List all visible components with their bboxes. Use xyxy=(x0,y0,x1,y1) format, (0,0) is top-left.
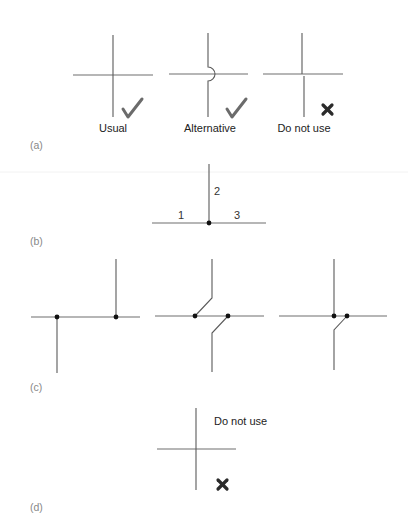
cross-icon xyxy=(218,480,227,489)
cross-icon xyxy=(323,105,332,114)
caption-alternative: Alternative xyxy=(184,122,236,134)
upper-wire xyxy=(195,259,212,316)
checkmark-icon xyxy=(227,99,246,117)
panel-a: Usual Alternative Do not use (a) xyxy=(30,33,343,151)
branch-label-2: 2 xyxy=(214,185,220,197)
panel-label-a: (a) xyxy=(30,139,43,151)
branch-label-1: 1 xyxy=(178,209,184,221)
panel-c: (c) xyxy=(30,259,387,393)
angled-junctions xyxy=(155,259,264,372)
junction-dot xyxy=(207,221,212,226)
panel-label-d: (d) xyxy=(30,501,43,513)
junction-dot xyxy=(332,314,337,319)
close-junctions xyxy=(279,259,387,370)
panel-b: 1 2 3 (b) xyxy=(30,164,266,247)
alternative-crossing: Alternative xyxy=(169,33,248,134)
do-not-use-crossing: Do not use xyxy=(263,33,343,134)
vertical-wire-with-hop xyxy=(208,33,215,117)
junction-dot xyxy=(345,314,350,319)
lower-wire xyxy=(212,316,228,372)
usual-crossing: Usual xyxy=(73,35,153,134)
panel-label-c: (c) xyxy=(30,381,42,393)
caption-do-not-use-d: Do not use xyxy=(214,415,267,427)
junction-dot xyxy=(114,315,119,320)
branch-label-3: 3 xyxy=(234,209,240,221)
checkmark-icon xyxy=(123,99,142,117)
lower-wire xyxy=(334,316,347,370)
staggered-junctions xyxy=(31,259,140,373)
junction-dot xyxy=(226,314,231,319)
junction-dot xyxy=(193,314,198,319)
panel-d: Do not use (d) xyxy=(30,408,267,513)
wiring-junction-diagram: Usual Alternative Do not use (a) 1 xyxy=(0,0,408,525)
junction-dot xyxy=(55,315,60,320)
caption-usual: Usual xyxy=(99,122,127,134)
caption-do-not-use: Do not use xyxy=(277,122,330,134)
panel-label-b: (b) xyxy=(30,235,43,247)
